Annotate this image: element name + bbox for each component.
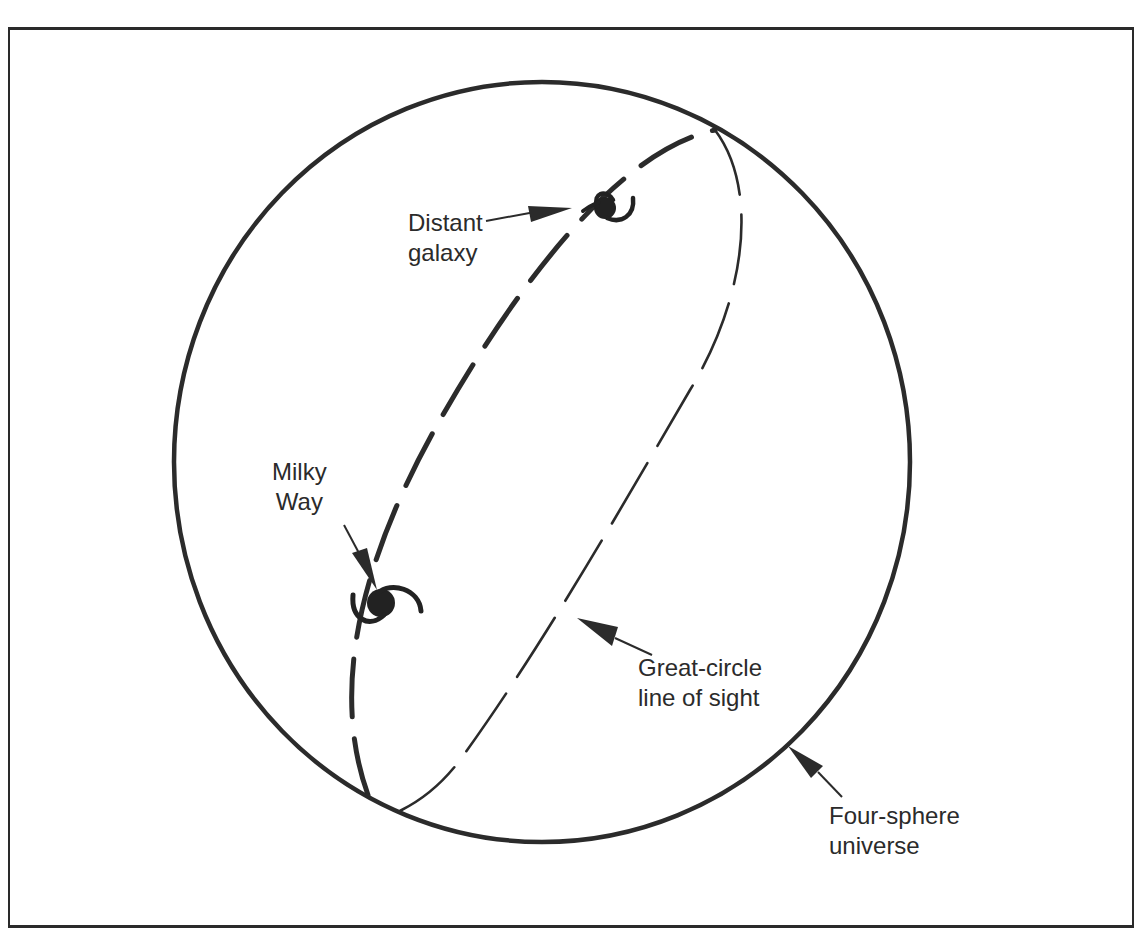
distant-galaxy-label-line1: Distant [408,208,483,238]
distant-galaxy-icon [583,193,633,220]
milky-way-label: Milky Way [272,457,327,517]
great-circle-pointer [577,618,652,655]
distant-galaxy-label-line2: galaxy [408,238,483,268]
distant-galaxy-label: Distant galaxy [408,208,483,268]
great-circle-label-line1: Great-circle [638,653,762,683]
milky-way-pointer [344,525,377,590]
four-sphere-label-line2: universe [829,831,960,861]
milky-way-label-line1: Milky [272,457,327,487]
great-circle-label: Great-circle line of sight [638,653,762,713]
four-sphere-pointer [788,746,842,797]
milky-way-label-line2: Way [272,487,327,517]
great-circle-label-line2: line of sight [638,683,762,713]
four-sphere-label-line1: Four-sphere [829,801,960,831]
four-sphere-diagram [0,0,1146,943]
four-sphere-label: Four-sphere universe [829,801,960,861]
distant-galaxy-pointer [486,206,572,222]
